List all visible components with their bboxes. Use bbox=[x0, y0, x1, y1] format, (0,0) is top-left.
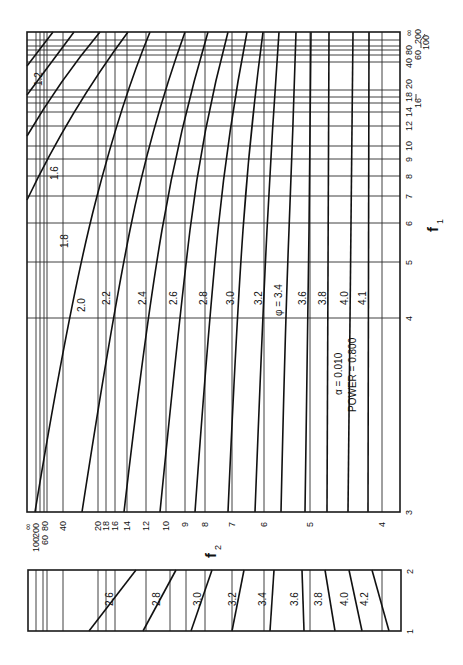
curve-label-3.8: 3.8 bbox=[317, 291, 328, 305]
inset-label-2.8: 2.8 bbox=[151, 592, 162, 606]
curve-label-2.2: 2.2 bbox=[101, 291, 112, 305]
tick-f1-7: 7 bbox=[404, 194, 414, 199]
inset-label-3.0: 3.0 bbox=[192, 592, 203, 606]
inset-label-3.4: 3.4 bbox=[257, 592, 268, 606]
curve-label-1.6: 1.6 bbox=[49, 166, 60, 180]
tick-f2-60: 60 bbox=[40, 535, 50, 545]
tick-f2-14: 14 bbox=[122, 521, 132, 531]
inset-label-4.2: 4.2 bbox=[359, 592, 370, 606]
tick-f2-12: 12 bbox=[141, 521, 151, 531]
curve-label-phi-3.4: φ = 3.4 bbox=[273, 284, 284, 316]
phi-curves bbox=[27, 32, 369, 512]
tick-f1-inf: ∞ bbox=[404, 30, 414, 36]
power-chart: 1.2 1.6 1.8 2.0 2.2 2.4 2.6 2.8 3.0 3.2 … bbox=[0, 0, 463, 665]
f2-label: f bbox=[202, 552, 219, 558]
inset-panel: 2.6 2.8 3.0 3.2 3.4 3.6 3.8 4.0 4.2 1 2 bbox=[28, 569, 415, 634]
f2-label-sub: 2 bbox=[213, 545, 223, 550]
tick-f2-8: 8 bbox=[200, 522, 210, 527]
tick-f2-16: 16 bbox=[110, 521, 120, 531]
inset-label-2.6: 2.6 bbox=[104, 592, 115, 606]
tick-f2-9: 9 bbox=[180, 522, 190, 527]
tick-f2-10: 10 bbox=[161, 521, 171, 531]
curve-label-1.2: 1.2 bbox=[33, 72, 44, 86]
main-panel: 1.2 1.6 1.8 2.0 2.2 2.4 2.6 2.8 3.0 3.2 … bbox=[27, 32, 400, 512]
tick-f2-4: 4 bbox=[377, 522, 387, 527]
curve-label-2.4: 2.4 bbox=[137, 291, 148, 305]
tick-f1-9: 9 bbox=[404, 157, 414, 162]
curve-label-2.0: 2.0 bbox=[76, 298, 87, 312]
alpha-annotation: α = 0.010 bbox=[333, 352, 344, 395]
tick-f1-6: 6 bbox=[404, 221, 414, 226]
curve-label-2.6: 2.6 bbox=[168, 291, 179, 305]
tick-f1-4: 4 bbox=[404, 316, 414, 321]
inset-label-3.6: 3.6 bbox=[289, 592, 300, 606]
curve-label-4.1: 4.1 bbox=[357, 291, 368, 305]
curve-label-3.6: 3.6 bbox=[297, 291, 308, 305]
curve-label-3.2: 3.2 bbox=[253, 291, 264, 305]
tick-f1-16: 16 bbox=[413, 98, 423, 108]
curve-label-2.8: 2.8 bbox=[198, 291, 209, 305]
tick-f1-10: 10 bbox=[404, 141, 414, 151]
tick-f2-5: 5 bbox=[305, 522, 315, 527]
f1-axis-title: f 1 bbox=[424, 219, 445, 232]
tick-f2-6: 6 bbox=[259, 522, 269, 527]
f2-tick-labels: ∞ 200 100 80 60 40 20 18 16 14 12 10 9 8… bbox=[23, 521, 387, 552]
curve-label-3.0: 3.0 bbox=[225, 291, 236, 305]
f2-axis-title: f 2 bbox=[202, 545, 223, 558]
power-annotation: POWER = 0.800 bbox=[347, 337, 358, 412]
f1-tick-labels: 3 4 5 6 7 8 9 10 12 14 16 18 20 40 60 80… bbox=[404, 29, 431, 515]
curve-label-4.0: 4.0 bbox=[339, 291, 350, 305]
tick-f1-5: 5 bbox=[404, 260, 414, 265]
f1-label: f bbox=[424, 226, 441, 232]
curve-label-1.8: 1.8 bbox=[59, 234, 70, 248]
f1-label-sub: 1 bbox=[435, 219, 445, 224]
tick-f1-12: 12 bbox=[404, 121, 414, 131]
inset-label-3.2: 3.2 bbox=[227, 592, 238, 606]
tick-f1-3: 3 bbox=[404, 510, 414, 515]
f2-gridlines bbox=[36, 32, 382, 512]
curve-labels: 1.2 1.6 1.8 2.0 2.2 2.4 2.6 2.8 3.0 3.2 … bbox=[33, 72, 368, 316]
tick-f1-1: 1 bbox=[405, 629, 415, 634]
tick-f1-20: 20 bbox=[404, 79, 414, 89]
tick-f1-18: 18 bbox=[404, 92, 414, 102]
tick-f1-80: 80 bbox=[404, 45, 414, 55]
tick-f1-2: 2 bbox=[405, 569, 415, 574]
tick-f2-40: 40 bbox=[58, 521, 68, 531]
tick-f1-8: 8 bbox=[404, 174, 414, 179]
inset-label-4.0: 4.0 bbox=[339, 592, 350, 606]
tick-f1-200: 200 bbox=[413, 29, 423, 44]
tick-f2-80: 80 bbox=[40, 521, 50, 531]
tick-f1-60: 60 bbox=[413, 50, 423, 60]
inset-label-3.8: 3.8 bbox=[313, 592, 324, 606]
tick-f2-7: 7 bbox=[227, 522, 237, 527]
